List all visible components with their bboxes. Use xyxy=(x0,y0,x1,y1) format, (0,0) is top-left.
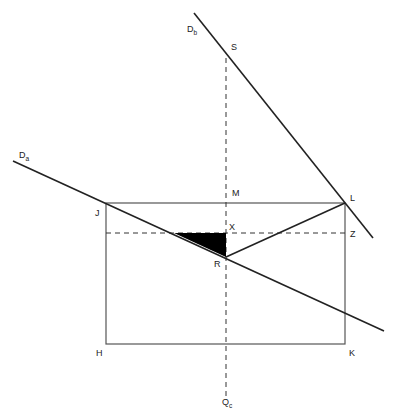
label-j: J xyxy=(95,208,100,218)
label-db: Db xyxy=(187,24,198,36)
line-da xyxy=(13,161,384,331)
label-qc: Qc xyxy=(222,397,233,409)
label-r: R xyxy=(214,259,221,269)
label-da: Da xyxy=(19,150,30,162)
label-m: M xyxy=(232,188,240,198)
line-db xyxy=(194,13,373,238)
shaded-triangle xyxy=(174,233,226,257)
label-s: S xyxy=(231,42,237,52)
label-x: X xyxy=(229,222,235,232)
label-l: L xyxy=(350,193,355,203)
label-k: K xyxy=(349,348,355,358)
segment-rl xyxy=(226,203,345,257)
label-h: H xyxy=(96,348,103,358)
diagram-canvas: Db S Da M L J X Z R H K Qc xyxy=(0,0,397,418)
label-z: Z xyxy=(350,229,356,239)
